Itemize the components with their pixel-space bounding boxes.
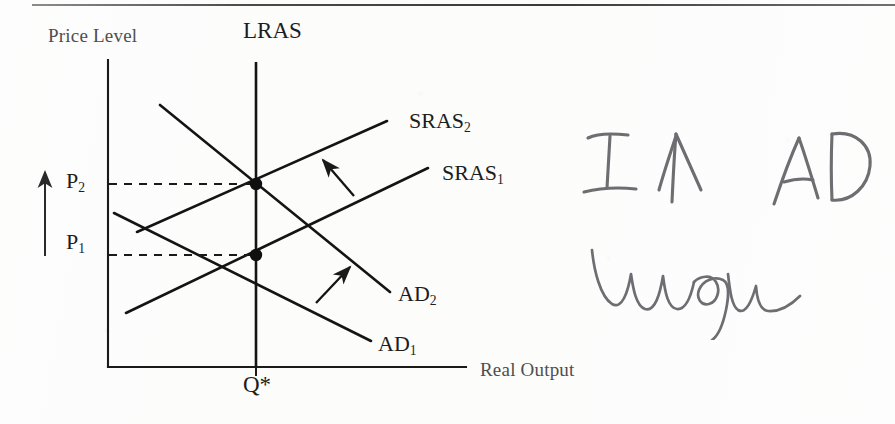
sras1-label: SRAS1 — [442, 160, 504, 188]
ad-shift-arrow — [316, 267, 350, 303]
x-axis-label: Real Output — [480, 359, 575, 381]
p2-label-text: P — [66, 168, 78, 193]
p1-label-sub: 1 — [78, 241, 85, 256]
sras-shift-arrow — [323, 160, 354, 196]
handwritten-letter-I — [584, 134, 636, 192]
sras2-label-sub: 2 — [464, 120, 471, 135]
handwritten-up-arrow — [659, 134, 701, 202]
ad1-curve — [114, 213, 371, 341]
p1-label: P1 — [66, 229, 85, 257]
sras1-label-sub: 1 — [497, 172, 504, 187]
sras1-label-text: SRAS — [442, 160, 497, 185]
figure-page: Price Level Real Output LRAS SRAS2 SRAS1… — [0, 0, 895, 424]
lras-label: LRAS — [243, 18, 302, 44]
ad2-curve — [160, 105, 390, 292]
ad2-label: AD2 — [398, 281, 437, 309]
p1-label-text: P — [66, 229, 78, 254]
ad1-label: AD1 — [378, 331, 417, 359]
sras2-label: SRAS2 — [409, 108, 471, 136]
sras2-label-text: SRAS — [409, 108, 464, 133]
handwritten-annotation-group — [560, 110, 890, 340]
handwritten-text-AD — [774, 133, 870, 204]
qstar-label: Q* — [243, 372, 271, 398]
equilibrium-point-lower — [250, 249, 262, 261]
ad1-label-text: AD — [378, 331, 410, 356]
ad2-label-sub: 2 — [430, 293, 437, 308]
sras2-curve — [137, 121, 387, 232]
p2-label: P2 — [66, 168, 85, 196]
handwritten-cursive-word — [592, 250, 800, 340]
p2-label-sub: 2 — [78, 180, 85, 195]
equilibrium-point-upper — [250, 178, 262, 190]
ad2-label-text: AD — [398, 281, 430, 306]
y-axis-label: Price Level — [48, 25, 137, 47]
ad1-label-sub: 1 — [410, 343, 417, 358]
